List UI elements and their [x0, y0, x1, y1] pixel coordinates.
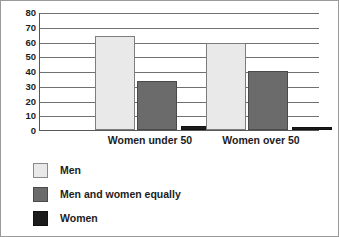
legend-swatch-women [33, 211, 48, 226]
legend-swatch-men [33, 163, 48, 178]
gridline [40, 43, 319, 44]
bar [95, 36, 135, 130]
gridline [40, 57, 319, 58]
x-axis-tick-label: Women over 50 [222, 134, 299, 146]
y-axis-tick-label: 70 [25, 23, 36, 33]
legend-label: Men and women equally [60, 188, 181, 200]
gridline [40, 28, 319, 29]
chart-legend: MenMen and women equallyWomen [33, 158, 181, 230]
x-axis-tick-label: Women under 50 [108, 134, 192, 146]
y-axis-tick-label: 0 [31, 126, 36, 136]
bar [248, 71, 288, 130]
legend-item: Women [33, 206, 181, 230]
bar [292, 127, 332, 130]
bar [137, 81, 177, 130]
legend-label: Men [60, 164, 81, 176]
y-axis-tick-label: 80 [25, 8, 36, 18]
plot-area: 01020304050607080 [39, 13, 319, 131]
y-axis-tick-label: 50 [25, 53, 36, 63]
y-axis-tick-label: 40 [25, 67, 36, 77]
bar [206, 43, 246, 130]
legend-item: Men [33, 158, 181, 182]
y-axis-tick-label: 30 [25, 82, 36, 92]
bar-chart-figure: 01020304050607080 Women under 50Women ov… [0, 0, 339, 237]
y-axis-tick-label: 60 [25, 38, 36, 48]
y-axis-tick-label: 20 [25, 97, 36, 107]
legend-item: Men and women equally [33, 182, 181, 206]
legend-swatch-equal [33, 187, 48, 202]
gridline [40, 13, 319, 14]
y-axis-tick-label: 10 [25, 112, 36, 122]
legend-label: Women [60, 212, 98, 224]
